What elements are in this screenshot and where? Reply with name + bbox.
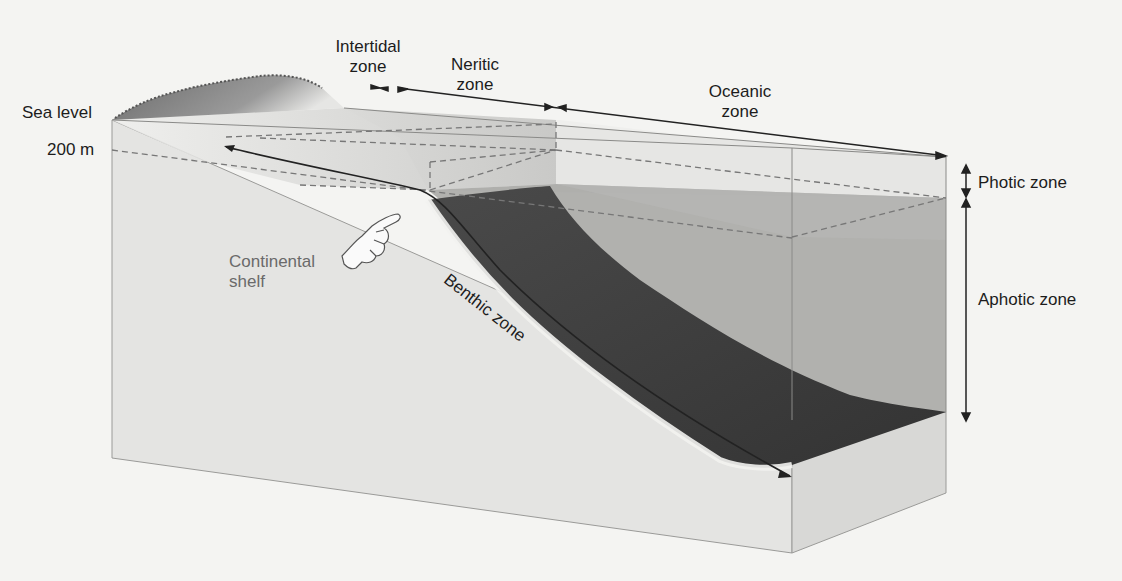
intertidal-zone-label: Intertidal zone	[328, 37, 408, 77]
depth-200m-label: 200 m	[47, 140, 94, 160]
oceanic-zone-label: Oceanic zone	[700, 82, 780, 122]
neritic-zone-label: Neritic zone	[440, 55, 510, 95]
photic-zone-label: Photic zone	[978, 173, 1067, 193]
ocean-block-illustration	[0, 0, 1122, 581]
sea-level-label: Sea level	[22, 103, 92, 123]
ocean-zones-diagram: Sea level 200 m Intertidal zone Neritic …	[0, 0, 1122, 581]
continental-shelf-label: Continental shelf	[229, 252, 315, 292]
aphotic-zone-label: Aphotic zone	[978, 290, 1076, 310]
vertical-zone-arrows	[962, 165, 970, 421]
